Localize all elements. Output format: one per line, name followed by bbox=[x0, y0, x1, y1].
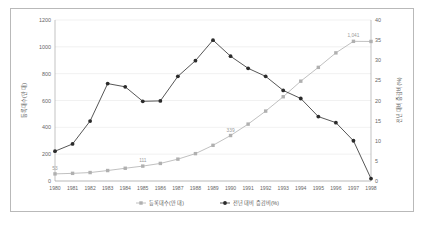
registrations-series-marker bbox=[141, 164, 144, 167]
growth-rate-series-marker bbox=[352, 139, 356, 143]
left-axis-tick-label: 1000 bbox=[39, 44, 51, 50]
registrations-series-marker bbox=[282, 95, 285, 98]
data-point-label: 53 bbox=[52, 166, 58, 171]
right-axis-tick-label: 25 bbox=[375, 77, 381, 83]
growth-rate-series-marker bbox=[334, 121, 338, 125]
data-point-label: 111 bbox=[139, 158, 147, 163]
x-axis-tick-label: 1990 bbox=[225, 185, 236, 191]
x-axis-tick-label: 1994 bbox=[295, 185, 306, 191]
x-axis-tick-label: 1989 bbox=[207, 185, 218, 191]
right-axis-tick-label: 20 bbox=[375, 98, 381, 104]
growth-rate-series-marker bbox=[264, 74, 268, 78]
growth-rate-series-marker bbox=[369, 177, 373, 181]
growth-rate-series-marker bbox=[123, 85, 127, 89]
registrations-series-marker bbox=[317, 66, 320, 69]
x-axis-tick-label: 1991 bbox=[242, 185, 253, 191]
right-axis-tick-label: 30 bbox=[375, 57, 381, 63]
growth-rate-series-marker bbox=[316, 115, 320, 119]
x-axis-tick-label: 1983 bbox=[102, 185, 113, 191]
left-axis-tick-label: 400 bbox=[42, 124, 51, 130]
right-axis-tick-label: 0 bbox=[375, 178, 378, 184]
registrations-series-marker bbox=[124, 167, 127, 170]
right-axis-tick-label: 40 bbox=[375, 17, 381, 23]
growth-rate-series-marker bbox=[194, 59, 198, 63]
growth-rate-series-marker bbox=[141, 99, 145, 103]
left-axis-tick-label: 600 bbox=[42, 98, 51, 104]
growth-rate-series-line bbox=[55, 40, 371, 178]
right-axis-tick-label: 15 bbox=[375, 118, 381, 124]
x-axis-tick-label: 1996 bbox=[330, 185, 341, 191]
x-axis-tick-label: 1993 bbox=[278, 185, 289, 191]
right-axis-tick-label: 10 bbox=[375, 138, 381, 144]
growth-rate-series-marker bbox=[106, 82, 110, 86]
x-axis-tick-label: 1982 bbox=[84, 185, 95, 191]
data-point-label: 1,041 bbox=[347, 33, 359, 38]
growth-rate-series-marker bbox=[88, 119, 92, 123]
growth-rate-series-marker bbox=[53, 149, 57, 153]
growth-rate-series-marker bbox=[71, 142, 75, 146]
registrations-series-marker bbox=[159, 162, 162, 165]
right-axis-title: 전년 대비 증감비(%) bbox=[395, 77, 403, 123]
legend-marker-registrations bbox=[139, 201, 142, 204]
chart-plot-area: 0200400600800100012000510152025303540등록대… bbox=[0, 0, 426, 227]
registrations-series-marker bbox=[246, 122, 249, 125]
x-axis-tick-label: 1998 bbox=[365, 185, 376, 191]
registrations-series-marker bbox=[229, 134, 232, 137]
right-axis-tick-label: 35 bbox=[375, 37, 381, 43]
registrations-series-marker bbox=[334, 51, 337, 54]
registrations-series-marker bbox=[176, 157, 179, 160]
registrations-series-marker bbox=[369, 40, 372, 43]
growth-rate-series-marker bbox=[281, 89, 285, 93]
registrations-series-marker bbox=[211, 144, 214, 147]
x-axis-tick-label: 1986 bbox=[155, 185, 166, 191]
left-axis-tick-label: 0 bbox=[48, 178, 51, 184]
left-axis-tick-label: 800 bbox=[42, 71, 51, 77]
growth-rate-series-marker bbox=[299, 97, 303, 101]
legend-label-growth-rate: 전년 대비 증감비(%) bbox=[233, 199, 279, 207]
x-axis-tick-label: 1992 bbox=[260, 185, 271, 191]
x-axis-tick-label: 1988 bbox=[190, 185, 201, 191]
growth-rate-series-marker bbox=[176, 74, 180, 78]
registrations-series-marker bbox=[264, 109, 267, 112]
x-axis-tick-label: 1981 bbox=[67, 185, 78, 191]
left-axis-tick-label: 200 bbox=[42, 151, 51, 157]
x-axis-tick-label: 1984 bbox=[120, 185, 131, 191]
data-point-label: 339 bbox=[227, 128, 235, 133]
legend-label-registrations: 등록대수(만 대) bbox=[149, 199, 184, 207]
x-axis-tick-label: 1987 bbox=[172, 185, 183, 191]
registrations-series-marker bbox=[352, 40, 355, 43]
growth-rate-series-marker bbox=[229, 54, 233, 58]
registrations-series-marker bbox=[71, 172, 74, 175]
x-axis-tick-label: 1997 bbox=[348, 185, 359, 191]
registrations-series-marker bbox=[194, 152, 197, 155]
registrations-series-marker bbox=[299, 79, 302, 82]
x-axis-tick-label: 1985 bbox=[137, 185, 148, 191]
x-axis-tick-label: 1980 bbox=[49, 185, 60, 191]
right-axis-tick-label: 5 bbox=[375, 158, 378, 164]
growth-rate-series-marker bbox=[211, 38, 215, 42]
legend-marker-growth-rate bbox=[223, 201, 227, 205]
chart-figure: 0200400600800100012000510152025303540등록대… bbox=[0, 0, 426, 227]
registrations-series-marker bbox=[88, 171, 91, 174]
left-axis-title: 등록대수(만 대) bbox=[20, 83, 28, 118]
growth-rate-series-marker bbox=[246, 66, 250, 70]
registrations-series-marker bbox=[53, 172, 56, 175]
registrations-series-marker bbox=[106, 169, 109, 172]
dual-axis-line-chart: 0200400600800100012000510152025303540등록대… bbox=[0, 0, 426, 227]
x-axis-tick-label: 1995 bbox=[313, 185, 324, 191]
growth-rate-series-marker bbox=[158, 99, 162, 103]
left-axis-tick-label: 1200 bbox=[39, 17, 51, 23]
